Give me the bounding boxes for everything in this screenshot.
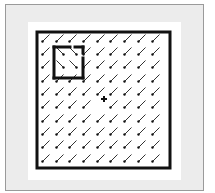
vector-arrow bbox=[109, 61, 117, 69]
vector-arrow bbox=[41, 75, 49, 83]
vector-arrow bbox=[137, 48, 145, 56]
vector-arrow-reversed bbox=[57, 48, 65, 56]
vector-arrow bbox=[151, 155, 159, 163]
vector-arrow-reversed bbox=[70, 48, 78, 56]
vector-arrow bbox=[96, 61, 104, 69]
vector-arrow bbox=[123, 61, 131, 69]
vector-arrow bbox=[109, 141, 117, 149]
vector-arrow bbox=[151, 75, 159, 83]
vector-arrow bbox=[55, 35, 63, 43]
vector-arrow bbox=[41, 61, 49, 69]
vector-arrow bbox=[55, 141, 63, 149]
vector-arrow bbox=[96, 155, 104, 163]
vector-arrow bbox=[96, 75, 104, 83]
vector-arrow bbox=[109, 88, 117, 96]
vector-arrow bbox=[41, 35, 49, 43]
center-plus-marker bbox=[101, 96, 107, 102]
vector-arrow bbox=[68, 155, 76, 163]
vector-arrow bbox=[55, 88, 63, 96]
vector-arrow bbox=[123, 128, 131, 136]
vector-arrow bbox=[55, 101, 63, 109]
vector-arrow bbox=[137, 141, 145, 149]
vector-arrow bbox=[41, 101, 49, 109]
vector-arrow bbox=[68, 101, 76, 109]
vector-arrow bbox=[151, 35, 159, 43]
vector-arrow bbox=[123, 101, 131, 109]
vector-arrow bbox=[41, 128, 49, 136]
vector-arrow bbox=[123, 88, 131, 96]
vector-arrow bbox=[96, 141, 104, 149]
vector-arrow bbox=[137, 61, 145, 69]
vector-arrow bbox=[109, 115, 117, 123]
vector-arrow bbox=[137, 101, 145, 109]
vector-arrow bbox=[41, 88, 49, 96]
vector-arrow-reversed bbox=[57, 61, 65, 69]
vector-arrow bbox=[137, 115, 145, 123]
vector-arrow bbox=[151, 88, 159, 96]
vector-arrow bbox=[68, 115, 76, 123]
vector-arrow bbox=[96, 48, 104, 56]
vector-arrow bbox=[151, 115, 159, 123]
vector-field-diagram bbox=[0, 0, 215, 193]
vector-arrow bbox=[96, 88, 104, 96]
vector-arrow bbox=[123, 35, 131, 43]
vector-arrow bbox=[137, 35, 145, 43]
vector-arrow bbox=[82, 115, 90, 123]
vector-arrow bbox=[109, 35, 117, 43]
vector-arrow bbox=[41, 155, 49, 163]
vector-arrow bbox=[68, 128, 76, 136]
vector-arrow bbox=[109, 155, 117, 163]
vector-arrow bbox=[109, 48, 117, 56]
vector-arrow bbox=[41, 115, 49, 123]
vector-arrow bbox=[137, 155, 145, 163]
vector-arrow bbox=[41, 48, 49, 56]
vector-arrow bbox=[151, 101, 159, 109]
vector-arrow bbox=[96, 35, 104, 43]
vector-arrow bbox=[68, 35, 76, 43]
vector-arrow bbox=[82, 128, 90, 136]
vector-arrow bbox=[55, 155, 63, 163]
vector-arrow bbox=[109, 101, 117, 109]
vector-arrow bbox=[55, 128, 63, 136]
vector-arrow bbox=[137, 75, 145, 83]
vector-arrow bbox=[82, 88, 90, 96]
vector-arrow bbox=[82, 101, 90, 109]
vector-arrow bbox=[123, 75, 131, 83]
vector-arrow bbox=[123, 141, 131, 149]
vector-arrow bbox=[68, 88, 76, 96]
vector-arrow bbox=[137, 128, 145, 136]
vector-arrow bbox=[68, 141, 76, 149]
vector-arrow bbox=[96, 128, 104, 136]
vector-arrow bbox=[82, 35, 90, 43]
vector-arrow bbox=[96, 115, 104, 123]
vector-arrow bbox=[151, 128, 159, 136]
vector-arrow bbox=[109, 75, 117, 83]
vector-arrow bbox=[137, 88, 145, 96]
vector-arrow bbox=[151, 48, 159, 56]
vector-arrow bbox=[82, 141, 90, 149]
vector-arrow bbox=[123, 48, 131, 56]
vector-arrow bbox=[123, 115, 131, 123]
vector-arrow bbox=[82, 155, 90, 163]
vector-arrow bbox=[123, 155, 131, 163]
vector-arrow bbox=[151, 141, 159, 149]
vector-arrow-reversed bbox=[70, 61, 78, 69]
vector-arrow bbox=[109, 128, 117, 136]
vector-arrow bbox=[151, 61, 159, 69]
vector-arrow bbox=[41, 141, 49, 149]
vector-arrow bbox=[55, 115, 63, 123]
vector-field bbox=[41, 35, 159, 163]
